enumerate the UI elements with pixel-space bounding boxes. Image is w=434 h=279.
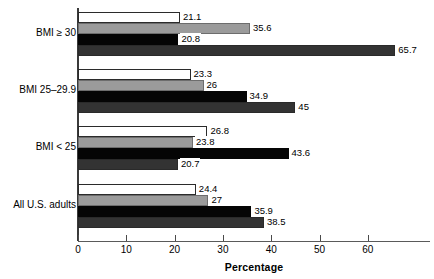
x-axis-title: Percentage: [78, 261, 430, 273]
bar: [78, 195, 208, 206]
bar: [78, 137, 193, 148]
bar-value-label: 38.5: [266, 216, 287, 228]
bar: [78, 91, 247, 102]
bar-value-label: 21.1: [182, 11, 203, 23]
bar-row: 38.5: [0, 217, 434, 228]
bar-row: 26.8: [0, 126, 434, 137]
x-tick-mark: [368, 235, 369, 241]
bar: [78, 206, 251, 217]
bar: [78, 80, 204, 91]
bar-group: All U.S. adults24.42735.938.5: [0, 184, 434, 228]
x-tick-label: 40: [258, 244, 284, 256]
bar-row: 35.6: [0, 23, 434, 34]
x-tick-mark: [175, 235, 176, 241]
bar: [78, 69, 191, 80]
bar-row: 21.1: [0, 12, 434, 23]
bar-row: 26: [0, 80, 434, 91]
bar-chart: 0102030405060 BMI ≥ 3021.135.620.865.7BM…: [0, 0, 434, 279]
x-tick-label: 60: [355, 244, 381, 256]
bar: [78, 159, 178, 170]
x-tick-mark: [223, 235, 224, 241]
x-axis-line: [78, 241, 430, 242]
x-tick-mark: [271, 235, 272, 241]
x-tick-label: 20: [162, 244, 188, 256]
bar-row: 43.6: [0, 148, 434, 159]
bar-group: BMI < 2526.823.843.620.7: [0, 126, 434, 170]
bar-row: 34.9: [0, 91, 434, 102]
x-tick-label: 0: [65, 244, 91, 256]
bar: [78, 102, 295, 113]
bar-value-label: 20.7: [180, 158, 201, 170]
x-tick-mark: [78, 235, 79, 241]
bar: [78, 217, 264, 228]
bar-group: BMI 25–29.923.32634.945: [0, 69, 434, 113]
x-tick-label: 30: [210, 244, 236, 256]
bar: [78, 12, 180, 23]
x-tick-label: 50: [307, 244, 333, 256]
bar-row: 27: [0, 195, 434, 206]
bar: [78, 126, 207, 137]
bar-row: 35.9: [0, 206, 434, 217]
bar: [78, 45, 395, 56]
bar: [78, 184, 196, 195]
x-tick-label: 10: [113, 244, 139, 256]
x-tick-mark: [320, 235, 321, 241]
bar-value-label: 45: [297, 101, 310, 113]
bar-value-label: 23.8: [195, 136, 216, 148]
bar-row: 23.8: [0, 137, 434, 148]
bar-value-label: 26: [206, 79, 219, 91]
bar: [78, 34, 178, 45]
bar-value-label: 34.9: [249, 90, 270, 102]
x-tick-mark: [126, 235, 127, 241]
bar: [78, 23, 250, 34]
bar-value-label: 20.8: [180, 33, 201, 45]
bar-row: 20.8: [0, 34, 434, 45]
bar-value-label: 35.6: [252, 22, 273, 34]
bar-value-label: 27: [210, 194, 223, 206]
bar-row: 45: [0, 102, 434, 113]
bar-row: 65.7: [0, 45, 434, 56]
bar-group: BMI ≥ 3021.135.620.865.7: [0, 12, 434, 56]
bar-row: 20.7: [0, 159, 434, 170]
bar-value-label: 43.6: [291, 147, 312, 159]
bar-value-label: 65.7: [397, 44, 418, 56]
